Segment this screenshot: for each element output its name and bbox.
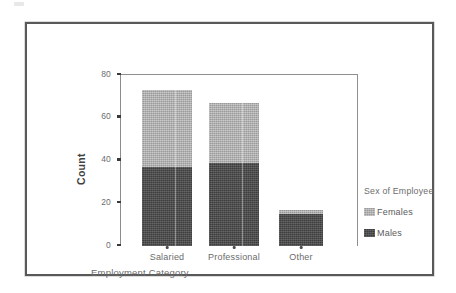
bar-segment-males: [209, 163, 259, 246]
legend-entries: FemalesMales: [364, 207, 454, 238]
x-axis-tick: [233, 246, 236, 249]
bar-other[interactable]: [279, 210, 323, 246]
bar-segment-females: [142, 90, 192, 167]
legend-item-females[interactable]: Females: [364, 207, 454, 217]
x-axis-tick: [300, 246, 303, 249]
legend-title: Sex of Employee: [364, 186, 454, 196]
chart-page: 020406080SalariedProfessionalOther Count…: [0, 0, 456, 293]
bar-highlight: [175, 90, 176, 246]
legend-item-males[interactable]: Males: [364, 228, 454, 238]
scan-artifact: [14, 2, 24, 6]
y-axis-tick-label: 40: [101, 154, 111, 164]
legend: Sex of Employee FemalesMales: [364, 186, 454, 238]
bar-segment-males: [279, 214, 323, 246]
bar-highlight: [242, 103, 243, 246]
y-axis-tick: 40: [117, 158, 121, 160]
bar-segment-females: [209, 103, 259, 163]
y-axis-tick: 20: [117, 201, 121, 203]
x-axis-tick-label: Other: [289, 252, 313, 262]
bar-professional[interactable]: [209, 103, 259, 246]
y-axis-tick-label: 20: [101, 197, 111, 207]
legend-item-label: Males: [377, 228, 402, 238]
bar-salaried[interactable]: [142, 90, 192, 246]
legend-swatch: [364, 229, 375, 237]
bar-segment-males: [142, 167, 192, 246]
y-axis-title: Count: [75, 153, 87, 185]
y-axis-tick: 60: [117, 115, 121, 117]
y-axis-tick: 0: [117, 244, 121, 246]
y-axis-tick: 80: [117, 73, 121, 75]
legend-item-label: Females: [377, 207, 413, 217]
chart-frame: 020406080SalariedProfessionalOther Count…: [25, 22, 434, 276]
plot-area: 020406080SalariedProfessionalOther: [121, 74, 358, 246]
x-axis-title: Employment Category: [91, 267, 189, 278]
legend-swatch: [364, 208, 375, 216]
y-axis-tick-label: 60: [101, 111, 111, 121]
y-axis-tick-label: 0: [106, 240, 111, 250]
x-axis-tick-label: Professional: [208, 252, 260, 262]
bar-segment-females: [279, 210, 323, 214]
x-axis-tick: [166, 246, 169, 249]
x-axis-tick-label: Salaried: [150, 252, 185, 262]
y-axis-tick-label: 80: [101, 69, 111, 79]
